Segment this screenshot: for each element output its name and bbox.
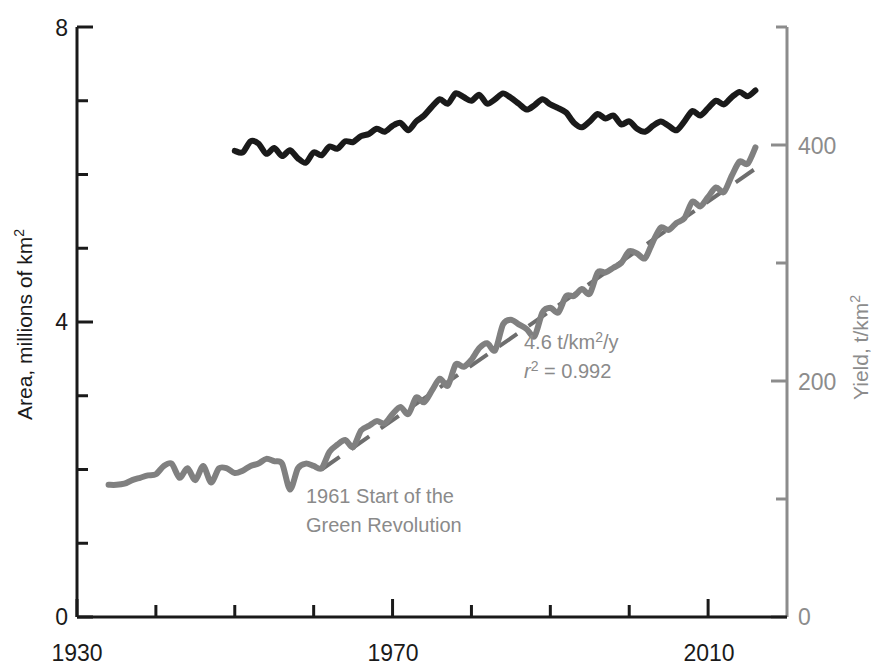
left-axis-title-text: Area, millions of km [13,237,36,420]
annotation-r2-superscript: 2 [531,358,539,374]
annotation-r2-line: r2 = 0.992 [524,358,611,382]
annotation-gr-line1: 1961 Start of the [306,485,454,507]
annotation-gr-line2: Green Revolution [306,514,462,536]
left-axis-ticks [77,27,93,617]
plot-area [109,90,756,489]
chart-container: 8 4 0 Area, millions of km2 400 200 0 Yi… [0,0,889,670]
x-tick-label-1970: 1970 [367,640,418,666]
x-axis-ticks [77,599,708,617]
annotation-trend-rate: 4.6 t/km2/y r2 = 0.992 [524,329,619,382]
right-tick-label-400: 400 [798,133,836,159]
chart-svg: 8 4 0 Area, millions of km2 400 200 0 Yi… [0,0,889,670]
right-axis-ticks [771,27,787,617]
left-tick-label-8: 8 [55,15,68,41]
annotation-green-revolution: 1961 Start of the Green Revolution [306,485,462,536]
right-axis-title: Yield, t/km2 [847,295,872,400]
annotation-rate-line: 4.6 t/km2/y [524,329,619,353]
annotation-r2-tail: = 0.992 [538,360,611,382]
left-axis-title-superscript: 2 [11,229,27,237]
right-axis: 400 200 0 Yield, t/km2 [771,27,872,630]
series-cereal-yield [109,147,756,489]
annotation-rate-tail: /y [603,331,619,353]
series-cereal-area [235,90,756,162]
right-axis-title-text: Yield, t/km [849,303,872,400]
right-axis-title-superscript: 2 [847,295,863,303]
left-tick-label-4: 4 [55,309,68,335]
x-axis: 1930 1970 2010 [51,599,787,666]
annotation-rate-text: 4.6 t/km [524,331,595,353]
annotation-rate-superscript: 2 [595,329,603,345]
left-axis-title: Area, millions of km2 [11,229,36,420]
right-tick-label-0: 0 [798,604,811,630]
left-tick-label-0: 0 [55,604,68,630]
left-axis: 8 4 0 Area, millions of km2 [11,15,93,630]
x-tick-label-2010: 2010 [683,640,734,666]
right-tick-label-200: 200 [798,369,836,395]
x-tick-label-1930: 1930 [51,640,102,666]
